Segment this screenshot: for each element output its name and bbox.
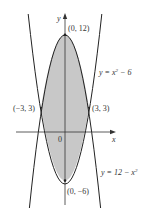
left-intersection-label: (−3, 3): [13, 104, 35, 113]
bottom-vertex-label: (0, −6): [67, 187, 89, 196]
origin-label: 0: [58, 135, 62, 144]
y-axis-label: y: [56, 14, 61, 23]
right-intersection-label: (3, 3): [92, 104, 110, 113]
x-axis-label: x: [111, 135, 116, 144]
x-axis-arrow-icon: [110, 130, 116, 134]
upward-parabola-equation: y = x2 − 6: [98, 68, 131, 77]
y-axis-arrow-icon: [63, 13, 67, 19]
right-intersection-dot: [88, 107, 90, 109]
downward-parabola-equation: y = 12 − x2: [100, 168, 138, 177]
parabola-region-diagram: y x 0 (0, 12) (−3, 3) (3, 3) (0, −6) y =…: [0, 0, 152, 218]
top-vertex-label: (0, 12): [68, 24, 90, 33]
left-intersection-dot: [40, 107, 42, 109]
bottom-vertex-dot: [64, 179, 67, 182]
top-vertex-dot: [64, 34, 67, 37]
